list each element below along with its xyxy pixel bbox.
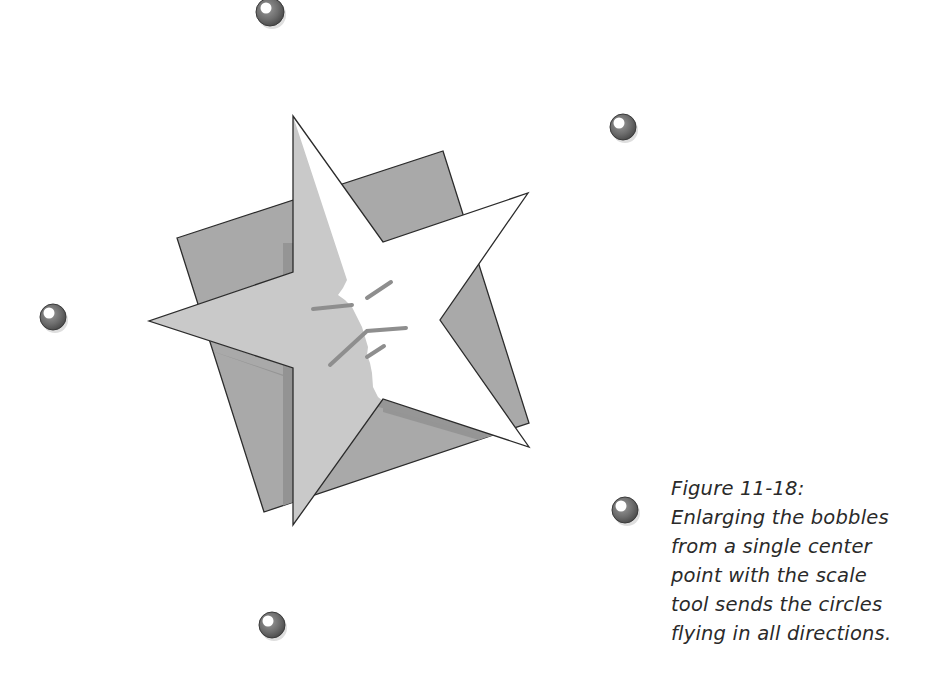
- caption-line: flying in all directions.: [671, 619, 941, 648]
- bobble-lower-right: [612, 497, 640, 526]
- caption-line: from a single center: [671, 532, 941, 561]
- caption-line: tool sends the circles: [671, 590, 941, 619]
- caption-line: Enlarging the bobbles: [671, 503, 941, 532]
- bobble-left: [40, 304, 68, 333]
- figure-caption: Figure 11-18: Enlarging the bobbles from…: [671, 474, 941, 648]
- figure-label: Figure 11-18:: [671, 474, 941, 503]
- bobble-bottom: [259, 612, 287, 641]
- bobble-top: [256, 0, 286, 29]
- bobble-upper-right: [610, 114, 638, 143]
- caption-line: point with the scale: [671, 561, 941, 590]
